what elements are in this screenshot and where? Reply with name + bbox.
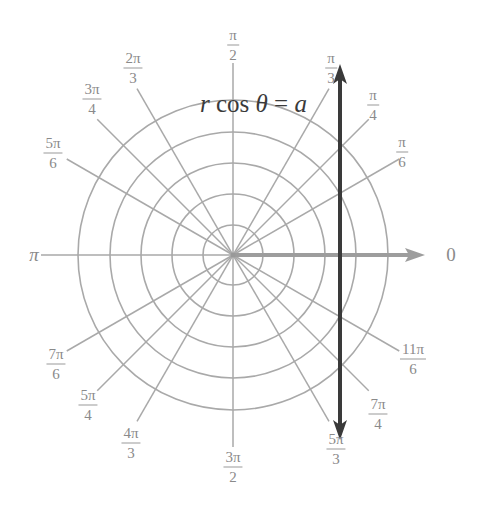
angle-label-numerator: π	[396, 135, 408, 153]
angle-label-7pi-6: 7π6	[46, 347, 65, 382]
angle-label-numerator: 7π	[46, 347, 65, 365]
angle-label-2pi-3: 2π3	[123, 51, 142, 86]
angle-label-numerator: π	[325, 51, 337, 69]
angle-label-numerator: 4π	[121, 426, 140, 444]
angle-label-denominator: 6	[400, 360, 426, 377]
angle-label-11pi-6: 11π6	[400, 342, 426, 377]
angle-label-0: 0	[446, 244, 456, 266]
spoke-150deg	[67, 159, 233, 255]
angle-label-numerator: 2π	[123, 51, 142, 69]
angle-label-7pi-4: 7π4	[368, 397, 387, 432]
angle-label-denominator: 6	[396, 153, 408, 170]
spoke-30deg	[233, 159, 399, 255]
angle-label-denominator: 6	[43, 154, 62, 171]
angle-label-denominator: 3	[123, 69, 142, 86]
spoke-330deg	[233, 255, 399, 351]
angle-label-4pi-3: 4π3	[121, 426, 140, 461]
angle-label-denominator: 3	[121, 444, 140, 461]
pole-origin	[231, 253, 236, 258]
spoke-300deg	[233, 255, 329, 421]
spoke-210deg	[67, 255, 233, 351]
angle-label-numerator: 11π	[400, 342, 426, 360]
angle-label-numerator: 7π	[368, 397, 387, 415]
polar-diagram: r cos θ = a 0π6π4π3π22π33π45π6π7π65π44π3…	[0, 0, 477, 513]
angle-label-numerator: π	[227, 28, 239, 46]
angle-label-3pi-4: 3π4	[82, 82, 101, 117]
equation-theta: θ	[256, 90, 268, 117]
angle-label-denominator: 6	[46, 365, 65, 382]
angle-label-numerator: 3π	[82, 82, 101, 100]
angle-label-denominator: 3	[325, 69, 337, 86]
angle-label-pi-2: π2	[227, 28, 239, 63]
equation-r: r	[200, 90, 210, 117]
angle-label-denominator: 2	[227, 46, 239, 63]
angle-label-pi-4: π4	[367, 88, 379, 123]
angle-label-denominator: 4	[78, 406, 97, 423]
angle-label-pi: π	[29, 244, 39, 266]
angle-label-pi-3: π3	[325, 51, 337, 86]
angle-label-5pi-4: 5π4	[78, 388, 97, 423]
angle-label-denominator: 4	[368, 415, 387, 432]
spoke-315deg	[233, 255, 369, 391]
angle-label-numerator: 5π	[43, 136, 62, 154]
equation-cos: cos	[216, 90, 249, 117]
angle-label-5pi-6: 5π6	[43, 136, 62, 171]
angle-label-pi-6: π6	[396, 135, 408, 170]
spoke-225deg	[97, 255, 233, 391]
angle-label-numerator: 5π	[78, 388, 97, 406]
angle-label-denominator: 4	[82, 100, 101, 117]
angle-label-numerator: 5π	[326, 432, 345, 450]
spoke-240deg	[137, 255, 233, 421]
spoke-45deg	[233, 119, 369, 255]
angle-label-5pi-3: 5π3	[326, 432, 345, 467]
angle-label-3pi-2: 3π2	[223, 450, 242, 485]
spoke-135deg	[97, 119, 233, 255]
angle-label-denominator: 4	[367, 106, 379, 123]
angle-label-numerator: 3π	[223, 450, 242, 468]
angle-label-denominator: 3	[326, 450, 345, 467]
polar-grid	[0, 0, 477, 513]
equation-equals: =	[274, 90, 288, 117]
angle-label-numerator: π	[367, 88, 379, 106]
equation-label: r cos θ = a	[200, 90, 307, 118]
equation-a: a	[294, 90, 307, 117]
angle-label-denominator: 2	[223, 468, 242, 485]
